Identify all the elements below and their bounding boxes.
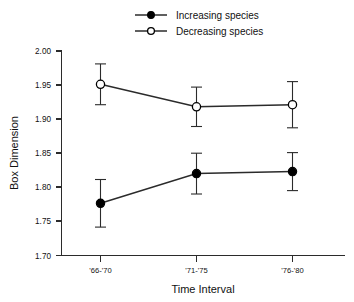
chart-legend: Increasing species Decreasing species bbox=[135, 10, 263, 37]
data-point-decreasing-0 bbox=[96, 80, 104, 88]
legend-label-decreasing: Decreasing species bbox=[176, 26, 263, 37]
line-chart-svg: Increasing species Decreasing species 2.… bbox=[0, 0, 354, 302]
y-tick-label: 1.70 bbox=[35, 252, 51, 261]
y-tick-label: 1.75 bbox=[35, 217, 51, 226]
y-tick-label: 1.90 bbox=[35, 115, 51, 124]
data-point-increasing-1 bbox=[192, 169, 200, 177]
legend-marker-open-circle bbox=[148, 28, 155, 35]
data-point-decreasing-1 bbox=[192, 103, 200, 111]
chart-figure: Increasing species Decreasing species 2.… bbox=[0, 0, 354, 302]
y-axis-title: Box Dimension bbox=[8, 116, 20, 190]
series-increasing-species bbox=[95, 153, 298, 228]
legend-marker-filled-circle bbox=[148, 12, 155, 19]
data-point-increasing-2 bbox=[288, 167, 296, 175]
x-axis-title: Time Interval bbox=[171, 283, 234, 295]
data-point-increasing-0 bbox=[96, 199, 104, 207]
legend-item-decreasing-species: Decreasing species bbox=[135, 26, 263, 37]
y-tick-label: 1.80 bbox=[35, 183, 51, 192]
y-axis-ticks: 2.00 1.95 1.90 1.85 1.80 1.75 1.70 bbox=[35, 47, 61, 261]
x-tick-label: '76-'80 bbox=[281, 266, 303, 275]
data-point-decreasing-2 bbox=[288, 101, 296, 109]
x-tick-label: '71-'75 bbox=[185, 266, 207, 275]
legend-label-increasing: Increasing species bbox=[176, 10, 259, 21]
y-tick-label: 1.85 bbox=[35, 149, 51, 158]
y-tick-label: 2.00 bbox=[35, 47, 51, 56]
legend-item-increasing-species: Increasing species bbox=[135, 10, 259, 21]
x-tick-label: '66-'70 bbox=[89, 266, 111, 275]
y-tick-label: 1.95 bbox=[35, 81, 51, 90]
series-decreasing-species bbox=[95, 64, 298, 128]
x-axis-ticks: '66-'70 '71-'75 '76-'80 bbox=[89, 256, 303, 276]
